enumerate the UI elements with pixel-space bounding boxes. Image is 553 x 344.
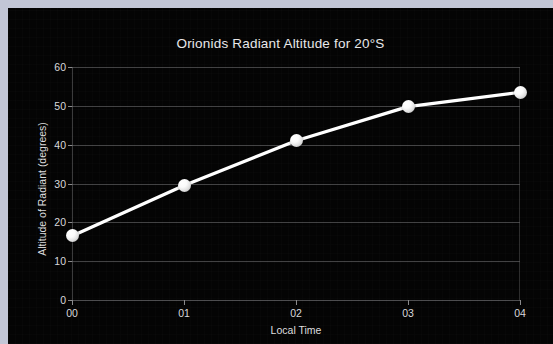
data-point-03 bbox=[402, 100, 415, 113]
y-tick-label-10: 10 bbox=[54, 255, 66, 267]
x-tick-mark-04 bbox=[520, 300, 521, 305]
x-tick-mark-01 bbox=[184, 300, 185, 305]
x-tick-label-00: 00 bbox=[66, 307, 78, 319]
data-point-01 bbox=[178, 179, 191, 192]
chart-panel: Orionids Radiant Altitude for 20°S Altit… bbox=[8, 8, 553, 344]
data-point-00 bbox=[66, 229, 79, 242]
series-polyline bbox=[72, 92, 520, 236]
y-tick-label-0: 0 bbox=[60, 294, 66, 306]
series-line bbox=[72, 67, 520, 300]
y-tick-label-30: 30 bbox=[54, 178, 66, 190]
x-tick-label-02: 02 bbox=[290, 307, 302, 319]
x-tick-label-03: 03 bbox=[402, 307, 414, 319]
x-tick-label-01: 01 bbox=[178, 307, 190, 319]
x-tick-mark-00 bbox=[72, 300, 73, 305]
x-axis-label: Local Time bbox=[72, 324, 520, 336]
chart-screenshot: Orionids Radiant Altitude for 20°S Altit… bbox=[0, 0, 553, 344]
y-tick-label-40: 40 bbox=[54, 139, 66, 151]
y-tick-label-50: 50 bbox=[54, 100, 66, 112]
data-point-02 bbox=[290, 134, 303, 147]
plot-area bbox=[72, 67, 520, 300]
data-point-04 bbox=[514, 86, 527, 99]
y-tick-label-20: 20 bbox=[54, 216, 66, 228]
y-axis-tick-labels: 0102030405060 bbox=[30, 67, 66, 300]
y-tick-label-60: 60 bbox=[54, 61, 66, 73]
x-tick-label-04: 04 bbox=[514, 307, 526, 319]
x-tick-mark-02 bbox=[296, 300, 297, 305]
chart-title: Orionids Radiant Altitude for 20°S bbox=[8, 36, 553, 51]
x-axis-tick-labels: 0001020304 bbox=[72, 307, 520, 321]
x-tick-mark-03 bbox=[408, 300, 409, 305]
